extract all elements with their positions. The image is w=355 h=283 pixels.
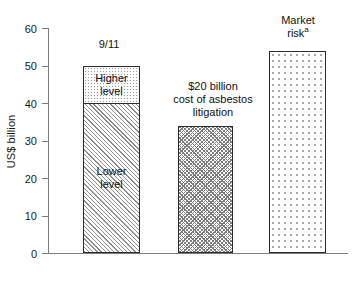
bar-segment-market-risk — [269, 51, 326, 254]
y-axis-title: US$ billion — [0, 0, 22, 283]
bar-caption-9-11: 9/11 — [75, 38, 143, 51]
y-tick-label-0: 0 — [31, 248, 37, 260]
y-tick-label-30: 30 — [25, 135, 37, 147]
y-tick-0: 0 — [42, 253, 48, 254]
y-tick-label-60: 60 — [25, 23, 37, 35]
plot-area: 0 10 20 30 40 50 60 9/11 Higher level Lo… — [48, 18, 348, 263]
bar-chart: US$ billion 0 10 20 30 40 50 60 9/11 — [0, 0, 355, 283]
y-tick-40: 40 — [42, 103, 48, 104]
y-tick-label-20: 20 — [25, 173, 37, 185]
y-tick-label-40: 40 — [25, 98, 37, 110]
y-tick-20: 20 — [42, 178, 48, 179]
bar-segment-lower-level: Lower level — [83, 103, 140, 253]
x-axis-line — [42, 253, 348, 254]
y-axis-line — [48, 28, 49, 253]
bar-segment-asbestos — [178, 126, 233, 254]
bar-segment-higher-level: Higher level — [83, 66, 140, 105]
bar-segment-higher-level-label: Higher level — [84, 72, 139, 98]
y-tick-50: 50 — [42, 66, 48, 67]
bar-caption-asbestos: $20 billion cost of asbestos litigation — [158, 80, 268, 119]
bar-caption-market-risk-text: Market risk — [281, 14, 315, 39]
bar-caption-market-risk-footnote: a — [304, 25, 308, 34]
y-tick-60: 60 — [42, 28, 48, 29]
y-tick-30: 30 — [42, 141, 48, 142]
y-tick-10: 10 — [42, 216, 48, 217]
y-tick-label-50: 50 — [25, 60, 37, 72]
bar-segment-lower-level-label: Lower level — [84, 165, 139, 191]
y-tick-label-10: 10 — [25, 210, 37, 222]
bar-caption-market-risk: Market riska — [243, 14, 353, 40]
